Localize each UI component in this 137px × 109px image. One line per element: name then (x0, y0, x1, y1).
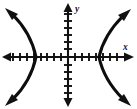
y-axis (64, 3, 73, 107)
y-axis-down-arrow-icon (64, 98, 73, 107)
graph-canvas: y x (0, 0, 137, 109)
hyperbola-figure: y x (0, 0, 137, 109)
y-axis-label: y (74, 4, 80, 14)
y-axis-up-arrow-icon (64, 3, 73, 12)
x-axis-right-arrow-icon (124, 53, 134, 62)
x-axis-label: x (122, 42, 128, 52)
x-axis-left-arrow-icon (2, 53, 11, 62)
